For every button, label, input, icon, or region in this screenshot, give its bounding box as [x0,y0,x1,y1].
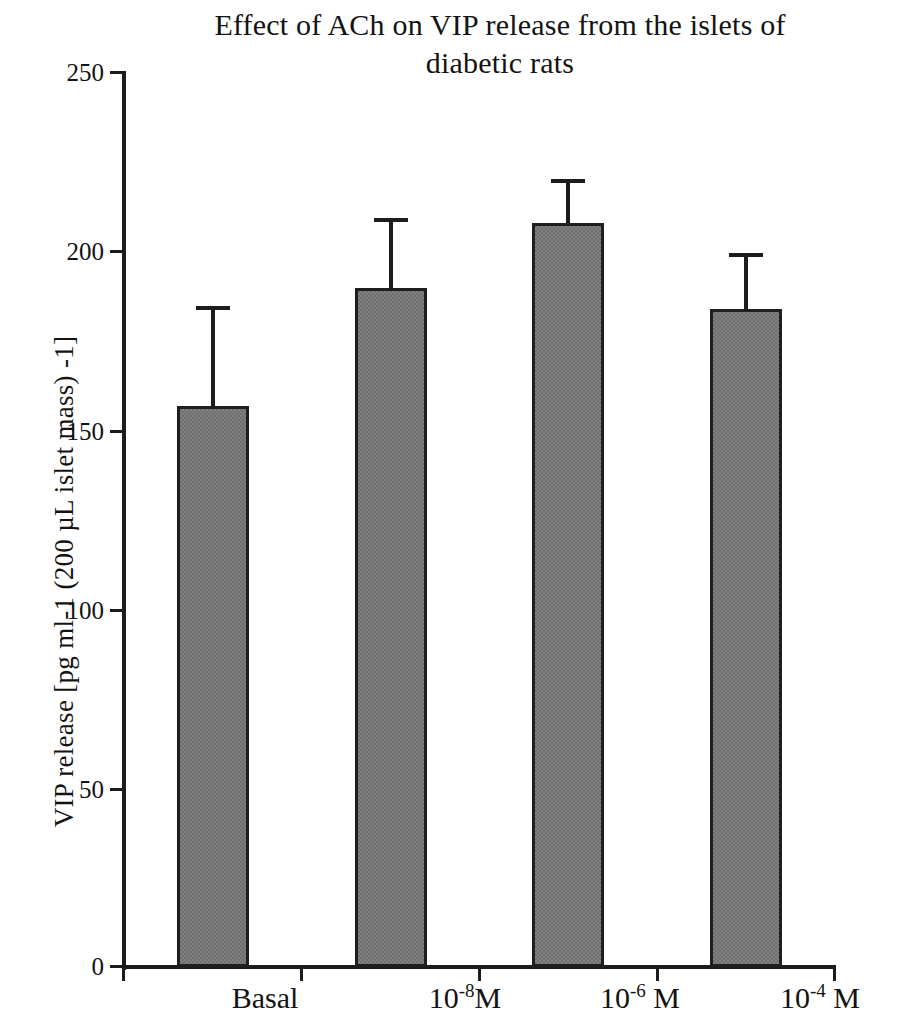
error-bar-stem-10-6M [566,181,570,225]
bar-10-4M [710,309,782,967]
y-tick-label-100: 100 [0,597,104,625]
error-bar-cap-10-4M [729,253,763,257]
x-axis-label-10-6M-suffix: M [646,981,680,1014]
y-tick-label-0: 0 [0,953,104,981]
y-tick-50 [110,788,124,791]
x-axis-label-10-6M-base: 10 [600,981,630,1014]
error-bar-stem-10-4M [744,255,748,311]
x-axis-label-basal: Basal [190,981,340,1015]
y-tick-100 [110,609,124,612]
x-tick-4 [833,968,836,981]
x-axis-label-10-4M-base: 10 [780,981,810,1014]
bar-10-8M [355,288,427,967]
error-bar-stem-basal [211,308,215,408]
x-axis-label-10-4M: 10-4 M [745,981,895,1015]
error-bar-cap-10-6M [551,179,585,183]
bar-10-6M [532,223,604,967]
chart-figure: Effect of ACh on VIP release from the is… [0,0,897,1036]
x-axis-label-10-4M-suffix: M [826,981,860,1014]
y-tick-label-200: 200 [0,238,104,266]
x-axis-label-10-8M: 10-8M [390,981,540,1015]
error-bar-stem-10-8M [389,220,393,290]
y-axis-line [122,71,126,970]
y-tick-200 [110,250,124,253]
x-tick-2 [478,968,481,981]
x-tick-1 [300,968,303,981]
x-tick-3 [656,968,659,981]
y-tick-250 [110,71,124,74]
y-tick-150 [110,430,124,433]
y-tick-label-50: 50 [0,776,104,804]
error-bar-cap-10-8M [374,218,408,222]
y-tick-label-250: 250 [0,59,104,87]
x-axis-label-basal-text: Basal [232,981,299,1014]
bar-basal [177,406,249,967]
y-tick-label-150: 150 [0,418,104,446]
plot-area: 250 200 150 100 50 0 [0,0,897,1036]
x-axis-label-10-8M-exponent: -8 [459,980,475,1001]
x-axis-label-10-6M: 10-6 M [565,981,715,1015]
x-axis-label-10-6M-exponent: -6 [630,980,646,1001]
x-axis-label-10-8M-suffix: M [475,981,502,1014]
x-tick-0 [122,968,125,981]
error-bar-cap-basal [196,306,230,310]
x-axis-label-10-4M-exponent: -4 [810,980,826,1001]
x-axis-label-10-8M-base: 10 [429,981,459,1014]
